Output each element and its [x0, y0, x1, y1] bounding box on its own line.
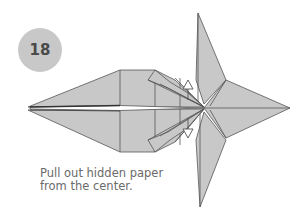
instruction-line-2: from the center. — [40, 180, 163, 193]
instruction-caption: Pull out hidden paper from the center. — [40, 167, 163, 193]
